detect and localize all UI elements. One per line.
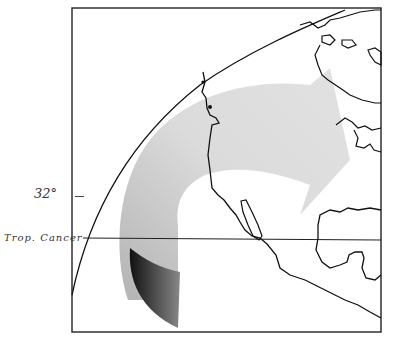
latitude-tick bbox=[75, 196, 84, 197]
island bbox=[208, 105, 212, 109]
map-canvas bbox=[0, 0, 393, 339]
baja-california bbox=[241, 200, 262, 240]
island bbox=[201, 80, 204, 83]
latitude-label: 32° bbox=[34, 186, 57, 201]
gulf-coast bbox=[316, 208, 381, 280]
tropic-of-cancer-label: Trop. Cancer bbox=[4, 232, 83, 243]
